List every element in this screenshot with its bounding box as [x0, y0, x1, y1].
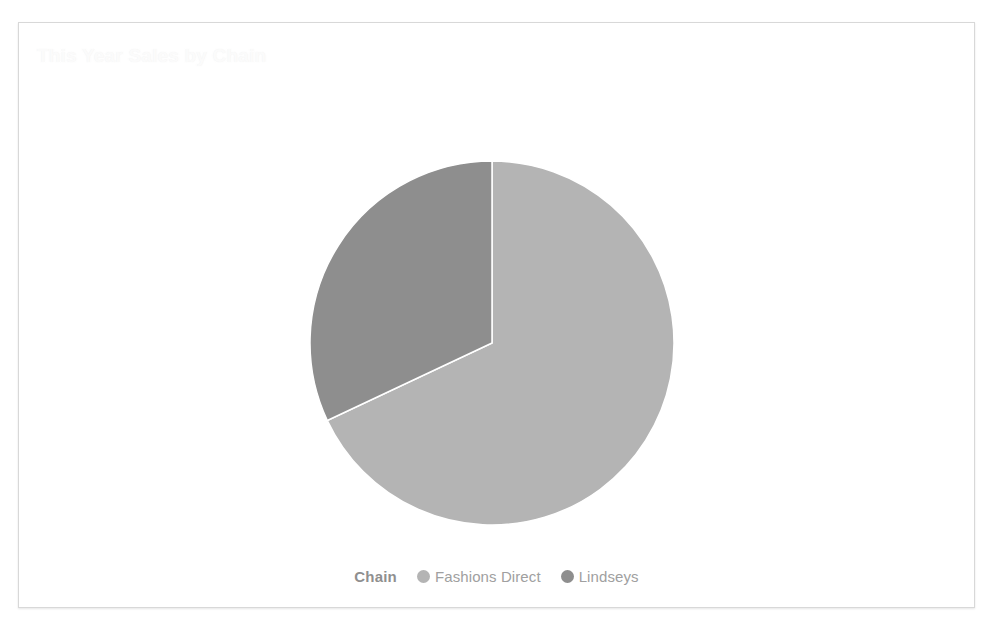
pie-chart-svg	[19, 63, 974, 533]
pie-chart-plot-area	[19, 63, 974, 533]
legend-item-label: Fashions Direct	[435, 568, 541, 585]
legend-swatch-icon	[561, 570, 574, 583]
pie-slices	[310, 161, 674, 525]
chart-card: This Year Sales by Chain Chain Fashions …	[18, 22, 975, 608]
legend-title: Chain	[354, 568, 397, 585]
screenshot-viewport: This Year Sales by Chain Chain Fashions …	[0, 0, 990, 624]
legend-item-lindseys[interactable]: Lindseys	[561, 568, 639, 585]
legend-item-fashions-direct[interactable]: Fashions Direct	[417, 568, 541, 585]
chart-legend: Chain Fashions Direct Lindseys	[19, 568, 974, 585]
legend-item-label: Lindseys	[579, 568, 639, 585]
legend-swatch-icon	[417, 570, 430, 583]
